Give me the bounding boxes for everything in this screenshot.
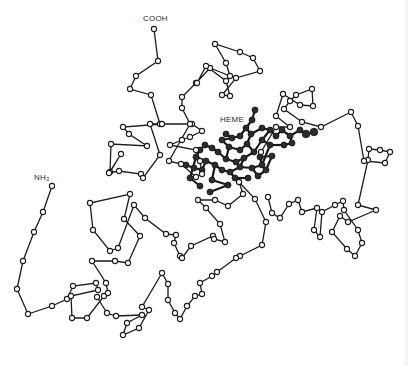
alpha-carbon-node bbox=[113, 313, 118, 318]
alpha-carbon-node bbox=[286, 201, 291, 206]
alpha-carbon-node bbox=[140, 175, 145, 180]
heme-atom bbox=[269, 153, 275, 159]
heme-atom bbox=[207, 189, 213, 195]
alpha-carbon-node bbox=[317, 234, 322, 239]
alpha-carbon-node bbox=[233, 75, 238, 80]
alpha-carbon-node bbox=[199, 171, 204, 176]
alpha-carbon-node bbox=[131, 202, 136, 207]
alpha-carbon-node bbox=[40, 209, 45, 214]
heme-atom bbox=[310, 128, 318, 136]
alpha-carbon-node bbox=[115, 245, 120, 250]
alpha-carbon-node bbox=[318, 124, 323, 129]
alpha-carbon-node bbox=[236, 179, 241, 184]
alpha-carbon-node bbox=[139, 304, 144, 309]
alpha-carbon-node bbox=[373, 207, 378, 212]
heme-atom bbox=[219, 167, 225, 173]
alpha-carbon-node bbox=[194, 80, 199, 85]
alpha-carbon-node bbox=[147, 121, 152, 126]
alpha-carbon-node bbox=[332, 202, 337, 207]
alpha-carbon-node bbox=[209, 273, 214, 278]
alpha-carbon-node bbox=[172, 310, 177, 315]
alpha-carbon-node bbox=[179, 255, 184, 260]
alpha-carbon-node bbox=[359, 240, 364, 245]
alpha-carbon-node bbox=[49, 303, 54, 308]
alpha-carbon-node bbox=[146, 307, 151, 312]
heme-atom bbox=[243, 125, 249, 131]
heme-atom bbox=[212, 162, 218, 168]
heme-atom bbox=[287, 133, 293, 139]
alpha-carbon-node bbox=[311, 227, 316, 232]
alpha-carbon-node bbox=[165, 281, 170, 286]
alpha-carbon-node bbox=[193, 174, 198, 179]
heme-atom bbox=[226, 144, 232, 150]
alpha-carbon-node bbox=[25, 311, 30, 316]
alpha-carbon-node bbox=[159, 270, 164, 275]
alpha-carbon-node bbox=[287, 124, 292, 129]
alpha-carbon-node bbox=[120, 332, 125, 337]
heme-atom bbox=[209, 177, 215, 183]
alpha-carbon-node bbox=[227, 73, 232, 78]
alpha-carbon-node bbox=[179, 137, 184, 142]
alpha-carbon-node bbox=[259, 242, 264, 247]
alpha-carbon-node bbox=[179, 105, 184, 110]
alpha-carbon-node bbox=[329, 229, 334, 234]
alpha-carbon-node bbox=[344, 246, 349, 251]
heme-atom bbox=[289, 140, 295, 146]
alpha-carbon-node bbox=[258, 149, 263, 154]
alpha-carbon-node bbox=[225, 203, 230, 208]
alpha-carbon-node bbox=[95, 287, 100, 292]
alpha-carbon-node bbox=[240, 191, 245, 196]
alpha-carbon-node bbox=[252, 196, 257, 201]
alpha-carbon-node bbox=[237, 49, 242, 54]
alpha-carbon-node bbox=[93, 280, 98, 285]
alpha-carbon-node bbox=[280, 91, 285, 96]
heme-atom bbox=[197, 183, 203, 189]
alpha-carbon-node bbox=[273, 124, 278, 129]
alpha-carbon-node bbox=[257, 68, 262, 73]
heme-atom bbox=[223, 131, 229, 137]
alpha-carbon-node bbox=[233, 255, 238, 260]
c-terminus-label: COOH bbox=[143, 14, 168, 23]
alpha-carbon-node bbox=[125, 260, 130, 265]
alpha-carbon-node bbox=[265, 194, 270, 199]
alpha-carbon-node bbox=[136, 325, 141, 330]
alpha-carbon-node bbox=[214, 269, 219, 274]
alpha-carbon-node bbox=[121, 216, 126, 221]
alpha-carbon-node bbox=[184, 303, 189, 308]
alpha-carbon-node bbox=[31, 229, 36, 234]
alpha-carbon-node bbox=[281, 106, 286, 111]
alpha-carbon-node bbox=[142, 215, 147, 220]
alpha-carbon-node bbox=[273, 113, 278, 118]
heme-atom bbox=[259, 137, 265, 143]
alpha-carbon-node bbox=[269, 210, 274, 215]
alpha-carbon-node bbox=[107, 248, 112, 253]
alpha-carbon-node bbox=[319, 209, 324, 214]
alpha-carbon-node bbox=[299, 209, 304, 214]
heme-atom bbox=[229, 135, 235, 141]
alpha-carbon-node bbox=[159, 121, 164, 126]
page-edge-shadow bbox=[402, 0, 408, 366]
alpha-carbon-node bbox=[361, 158, 366, 163]
alpha-carbon-node bbox=[127, 191, 132, 196]
alpha-carbon-node bbox=[192, 293, 197, 298]
alpha-carbon-node bbox=[139, 312, 144, 317]
alpha-carbon-node bbox=[187, 121, 192, 126]
alpha-carbon-node bbox=[345, 219, 350, 224]
heme-atom bbox=[267, 142, 273, 148]
alpha-carbon-node bbox=[177, 316, 182, 321]
alpha-carbon-node bbox=[49, 183, 54, 188]
alpha-carbon-node bbox=[118, 151, 123, 156]
heme-atom bbox=[259, 162, 265, 168]
alpha-carbon-node bbox=[165, 297, 170, 302]
heme-atom bbox=[281, 142, 287, 148]
alpha-carbon-node bbox=[355, 123, 360, 128]
alpha-carbon-node bbox=[126, 131, 131, 136]
alpha-carbon-node bbox=[355, 227, 360, 232]
alpha-carbon-node bbox=[212, 197, 217, 202]
heme-atom bbox=[249, 117, 255, 123]
alpha-carbon-node bbox=[211, 236, 216, 241]
alpha-carbon-node bbox=[127, 86, 132, 91]
heme-atom bbox=[187, 175, 193, 181]
alpha-carbon-node bbox=[84, 315, 89, 320]
alpha-carbon-node bbox=[250, 55, 255, 60]
